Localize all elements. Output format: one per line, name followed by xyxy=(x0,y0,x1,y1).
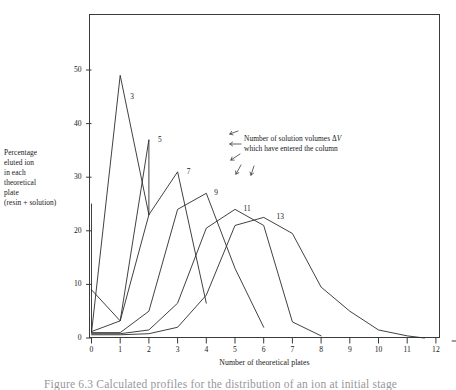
pointer-arrow-down-right-head-0 xyxy=(250,172,251,175)
y-tick-label-40: 40 xyxy=(62,120,82,128)
page-caption-text: Figure 6.3 Calculated profiles for the d… xyxy=(44,379,397,390)
annotation-line-2: which have entered the column xyxy=(244,144,440,154)
curve-5 xyxy=(92,140,149,321)
y-tick-label-20: 20 xyxy=(62,227,82,235)
x-tick-label-1: 1 xyxy=(112,346,128,354)
data-curves xyxy=(92,75,425,338)
series-label-5: 5 xyxy=(158,136,162,144)
y-tick-label-30: 30 xyxy=(62,173,82,181)
x-tick-label-2: 2 xyxy=(141,346,157,354)
y-tick-label-50: 50 xyxy=(62,66,82,74)
tick-marks xyxy=(86,70,456,344)
annotation-line-1: Number of solution volumes ΔV xyxy=(244,134,440,144)
series-label-13: 13 xyxy=(277,213,284,221)
series-label-3: 3 xyxy=(130,93,134,101)
x-tick-label-6: 6 xyxy=(256,346,272,354)
x-tick-label-10: 10 xyxy=(371,346,387,354)
curve-13 xyxy=(92,217,425,338)
x-tick-label-4: 4 xyxy=(198,346,214,354)
x-tick-label-11: 11 xyxy=(399,346,415,354)
series-label-11: 11 xyxy=(244,205,251,213)
pointer-arrow-upper-left-head-1 xyxy=(230,134,233,135)
volume-symbol: V xyxy=(337,134,342,143)
y-tick-label-0: 0 xyxy=(62,334,82,342)
x-axis-title: Number of theoretical plates xyxy=(89,358,440,367)
annotation-line-1-prefix: Number of solution volumes xyxy=(244,134,332,143)
plot-canvas xyxy=(0,0,456,390)
y-tick-label-10: 10 xyxy=(62,280,82,288)
curve-3 xyxy=(92,75,149,332)
x-tick-label-8: 8 xyxy=(313,346,329,354)
x-tick-label-3: 3 xyxy=(170,346,186,354)
page-caption-clipped: Figure 6.3 Calculated profiles for the d… xyxy=(0,379,456,390)
series-label-7: 7 xyxy=(187,168,191,176)
series-label-9: 9 xyxy=(214,189,218,197)
x-tick-label-5: 5 xyxy=(227,346,243,354)
annotation-text: Number of solution volumes ΔV which have… xyxy=(244,134,440,155)
x-tick-label-9: 9 xyxy=(342,346,358,354)
figure-container: Percentage eluted ion in each theoretica… xyxy=(0,0,456,390)
curve-9 xyxy=(92,193,264,332)
x-tick-label-12: 12 xyxy=(428,346,444,354)
x-tick-label-7: 7 xyxy=(284,346,300,354)
curve-11 xyxy=(92,209,322,335)
x-tick-label-0: 0 xyxy=(84,346,100,354)
